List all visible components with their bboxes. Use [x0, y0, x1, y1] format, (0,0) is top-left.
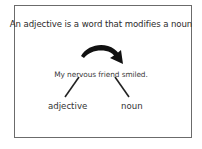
label-adjective: adjective [48, 101, 87, 111]
label-noun: noun [121, 101, 143, 111]
example-sentence: My nervous friend smiled. [0, 70, 202, 79]
curved-arrow-icon [81, 45, 123, 64]
connector-line-noun [115, 77, 129, 97]
connector-line-adjective [65, 77, 79, 97]
